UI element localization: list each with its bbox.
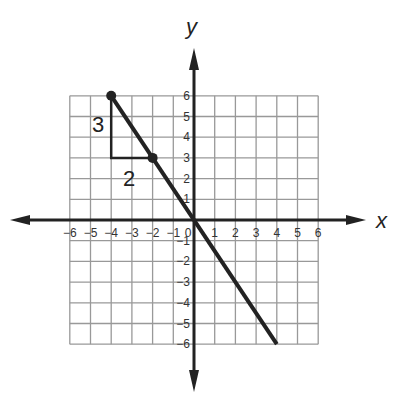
y-tick-label: −5 [176,317,190,331]
y-tick-label: −4 [176,296,190,310]
x-tick-label: 5 [294,226,301,240]
x-tick-label: −4 [104,226,118,240]
run-label: 2 [123,166,135,192]
x-axis-label: x [376,208,387,234]
plotted-point [148,153,158,163]
x-tick-label: 3 [253,226,260,240]
x-tick-label: −6 [63,226,77,240]
x-tick-label: 2 [232,226,239,240]
y-tick-label: 5 [183,110,190,124]
coordinate-plane: −6−5−4−3−2−10123456123456−1−2−3−4−5−6 [0,0,406,407]
x-tick-label: 4 [273,226,280,240]
x-tick-label: −5 [84,226,98,240]
y-tick-label: −2 [176,254,190,268]
plotted-point [106,91,116,101]
x-tick-label: −2 [146,226,160,240]
y-tick-label: 2 [183,172,190,186]
x-tick-label: 1 [211,226,218,240]
y-tick-label: −1 [176,234,190,248]
y-tick-label: −6 [176,337,190,351]
rise-label: 3 [92,112,104,138]
y-tick-label: 3 [183,151,190,165]
y-tick-label: 6 [183,89,190,103]
x-tick-label: 6 [315,226,322,240]
y-axis-label: y [186,14,197,40]
y-tick-label: −3 [176,275,190,289]
x-tick-label: −3 [125,226,139,240]
y-tick-label: 4 [183,130,190,144]
